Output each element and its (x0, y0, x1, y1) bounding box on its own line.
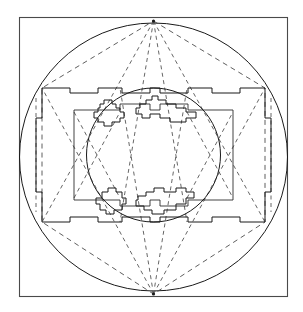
bottom-apex-point (152, 292, 155, 295)
canvas-background (0, 0, 303, 312)
top-apex-point (152, 19, 155, 22)
diagram-root (0, 0, 303, 312)
architectural-plan-diagram (0, 0, 303, 312)
